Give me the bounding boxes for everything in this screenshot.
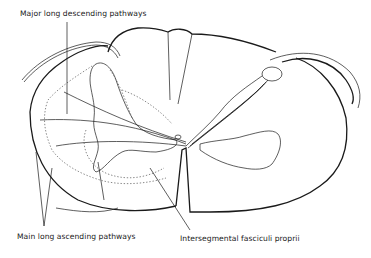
pointer-ascending-2 — [44, 168, 52, 226]
grey-matter-left — [90, 63, 177, 172]
dorsal-root-left-outer — [22, 42, 120, 80]
label-intersegmental-fasciculi-proprii: Intersegmental fasciculi proprii — [180, 234, 300, 243]
posterior-septum — [168, 32, 192, 104]
pointer-ascending-1 — [36, 152, 44, 226]
grey-matter-right — [200, 131, 280, 169]
fasciculi-boundary-right — [122, 90, 172, 124]
root-entry-zone — [262, 67, 282, 81]
label-main-long-ascending-pathways: Main long ascending pathways — [17, 232, 136, 241]
dorsal-horn-right-fibers — [188, 80, 268, 148]
central-canal — [175, 135, 181, 139]
dorsal-horn-right — [186, 76, 262, 146]
ventral-fibers — [56, 162, 118, 212]
pointer-intersegmental — [150, 168, 190, 230]
cord-outline-top — [108, 28, 276, 52]
cord-outline-left — [30, 46, 176, 211]
label-major-long-descending-pathways: Major long descending pathways — [20, 9, 146, 18]
anterior-fissure — [176, 148, 210, 212]
spinal-cord-diagram — [0, 0, 371, 258]
